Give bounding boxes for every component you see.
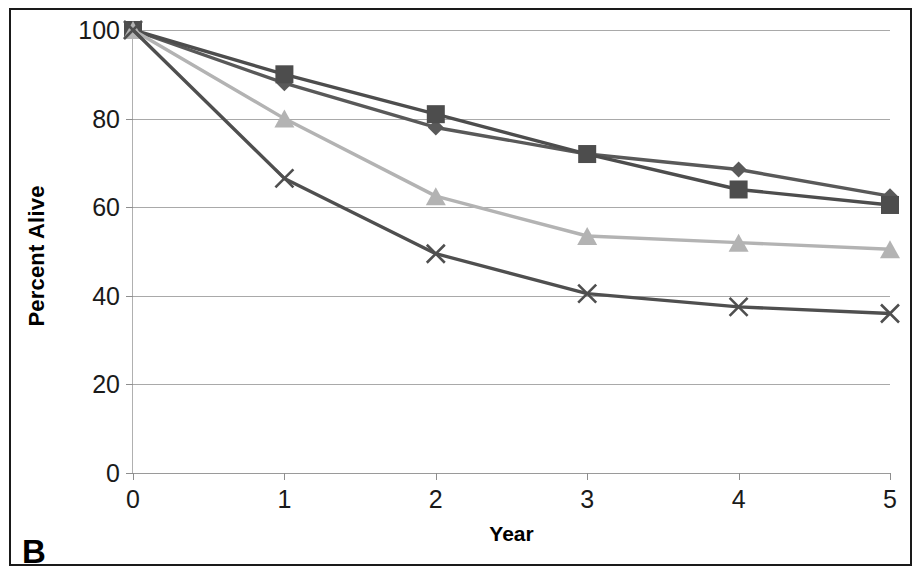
- x-tick-label-2: 2: [429, 487, 443, 512]
- plot-area: 020406080100 012345: [133, 30, 890, 473]
- x-axis-title: Year: [133, 522, 890, 546]
- panel-label: B: [22, 535, 46, 568]
- x-tick-label-3: 3: [580, 487, 594, 512]
- y-tick-label-40: 40: [92, 283, 120, 308]
- series-square-marker-5: [881, 196, 899, 214]
- x-tick-3: [587, 473, 588, 480]
- series-square-marker-4: [730, 180, 748, 198]
- series-square-line: [133, 30, 890, 205]
- series-square: [124, 21, 899, 214]
- x-tick-1: [284, 473, 285, 480]
- series-diamond: [125, 22, 898, 204]
- x-tick-2: [436, 473, 437, 480]
- x-tick-5: [890, 473, 891, 480]
- series-square-marker-2: [427, 105, 445, 123]
- y-tick-80: [126, 119, 133, 120]
- x-tick-label-1: 1: [277, 487, 291, 512]
- x-tick-0: [133, 473, 134, 480]
- gridline-0: [133, 473, 890, 474]
- series-diamond-marker-4: [731, 162, 747, 178]
- series-square-marker-1: [275, 65, 293, 83]
- y-tick-label-100: 100: [78, 18, 120, 43]
- y-tick-40: [126, 296, 133, 297]
- y-tick-0: [126, 473, 133, 474]
- series-square-marker-3: [578, 145, 596, 163]
- series-cross-line: [133, 30, 890, 314]
- series-layer: [133, 30, 890, 473]
- x-tick-label-0: 0: [126, 487, 140, 512]
- series-triangle-marker-2: [426, 187, 446, 205]
- y-axis-title: Percent Alive: [24, 185, 50, 326]
- figure-panel-b: Percent Alive 020406080100 012345 Year B: [0, 0, 921, 582]
- series-cross-marker-1: [275, 169, 293, 187]
- series-triangle-marker-1: [274, 110, 294, 128]
- x-tick-label-5: 5: [883, 487, 897, 512]
- y-tick-label-0: 0: [106, 461, 120, 486]
- x-tick-label-4: 4: [732, 487, 746, 512]
- chart-area: Percent Alive 020406080100 012345 Year: [11, 10, 910, 533]
- y-tick-label-20: 20: [92, 372, 120, 397]
- y-tick-60: [126, 207, 133, 208]
- y-tick-label-60: 60: [92, 195, 120, 220]
- series-diamond-line: [133, 30, 890, 196]
- y-tick-label-80: 80: [92, 106, 120, 131]
- y-tick-20: [126, 384, 133, 385]
- x-tick-4: [739, 473, 740, 480]
